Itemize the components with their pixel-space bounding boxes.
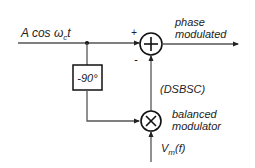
- minus-sign: -: [134, 53, 138, 65]
- balanced-label-line1: balanced: [172, 108, 218, 120]
- output-label-line2: modulated: [175, 28, 227, 40]
- balanced-label-line2: modulator: [172, 120, 222, 132]
- carrier-label: A cos ωct: [20, 26, 71, 42]
- phase-shifter-label: -90°: [77, 72, 98, 84]
- plus-sign: +: [131, 27, 137, 38]
- output-label-line1: phase: [174, 16, 205, 28]
- shifter-output-line: [87, 90, 139, 121]
- modulating-input-label: Vm(f): [161, 142, 186, 157]
- block-diagram: A cos ωct -90° + - phase modulated (DSBS…: [0, 0, 255, 168]
- dsbsc-label: (DSBSC): [160, 83, 206, 95]
